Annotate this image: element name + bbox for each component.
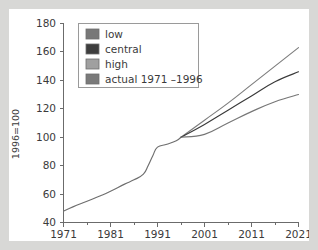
x-tick-label-2021: 2021: [285, 228, 309, 240]
series-line-low: [181, 95, 299, 138]
x-tick-label-1981: 1981: [97, 228, 124, 240]
legend-swatch-central: [86, 44, 99, 54]
legend: low central high actual 1971 –1996: [79, 24, 204, 88]
y-axis: 180 160 140 120 100 80 60 40: [36, 17, 64, 228]
x-axis: 1971 1981 1991 2001 2011 2021: [50, 223, 309, 241]
legend-label-low: low: [105, 28, 123, 40]
x-tick-label-2011: 2011: [238, 228, 265, 240]
line-chart: 1996=100 180 160 140 120 100 80 60 40: [9, 9, 309, 241]
x-tick-label-1991: 1991: [144, 228, 171, 240]
y-tick-label-80: 80: [43, 159, 56, 171]
y-tick-label-40: 40: [43, 216, 56, 228]
legend-swatch-low: [86, 29, 99, 39]
legend-label-high: high: [105, 58, 128, 70]
y-tick-label-160: 160: [36, 45, 56, 57]
y-axis-title-text: 1996=100: [10, 109, 21, 159]
chart-figure: 1996=100 180 160 140 120 100 80 60 40: [9, 9, 309, 241]
legend-label-central: central: [105, 43, 142, 55]
y-tick-label-100: 100: [36, 131, 56, 143]
y-axis-title: 1996=100: [10, 109, 21, 159]
y-tick-label-180: 180: [36, 17, 56, 29]
x-tick-label-1971: 1971: [50, 228, 77, 240]
x-tick-label-2001: 2001: [191, 228, 218, 240]
series-line-actual: [64, 137, 182, 211]
legend-swatch-high: [86, 59, 99, 69]
legend-label-actual: actual 1971 –1996: [105, 73, 203, 85]
y-tick-label-120: 120: [36, 102, 56, 114]
y-tick-label-140: 140: [36, 74, 56, 86]
y-tick-label-60: 60: [43, 188, 56, 200]
legend-swatch-actual: [86, 74, 99, 84]
